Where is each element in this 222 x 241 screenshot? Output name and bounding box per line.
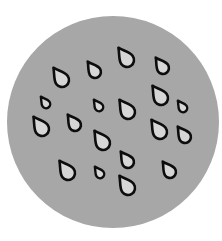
- rain-icon-graphic: [0, 0, 222, 241]
- rain-drops-icon: [0, 0, 222, 241]
